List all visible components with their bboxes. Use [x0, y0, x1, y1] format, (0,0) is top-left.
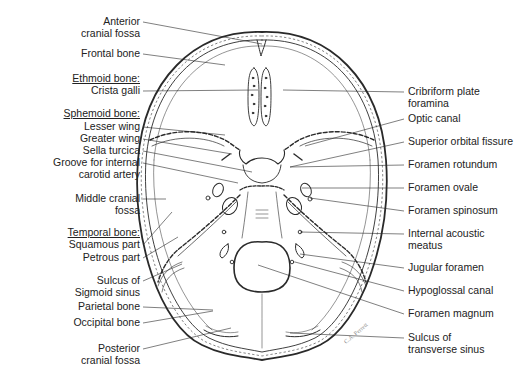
label-text: Groove for internal — [53, 156, 140, 168]
label-text: Optic canal — [408, 112, 461, 124]
leader-groove-internal-carotid — [143, 163, 238, 183]
label-sella-turcica: Sella turcica — [83, 144, 140, 156]
foramen-spinosum-left — [206, 196, 210, 200]
lesser-wing-left — [150, 132, 240, 150]
label-text: Frontal bone — [81, 47, 140, 59]
label-text: Cribriform plate — [408, 85, 480, 97]
hypoglossal-canal-right — [290, 260, 294, 264]
label-text: cranial fossa — [81, 354, 140, 366]
label-text: Middle cranial — [75, 192, 140, 204]
leader-lesser-wing — [143, 127, 225, 135]
label-foramen-rotundum: Foramen rotundum — [408, 158, 497, 170]
label-text: Ethmoid bone: — [72, 72, 140, 84]
foramen-ovale-right — [299, 182, 314, 199]
leader-parietal-bone — [143, 307, 213, 310]
petrous-ridge-right — [284, 195, 366, 282]
sella-turcica — [239, 150, 284, 164]
label-text: Foramen ovale — [408, 181, 478, 193]
superior-orbital-fissure-right — [294, 154, 302, 160]
lesser-wing-right — [284, 132, 374, 150]
jugular-foramen-left — [220, 244, 229, 258]
label-text: Jugular foramen — [408, 261, 484, 273]
hypoglossal-canal-left — [230, 260, 234, 264]
label-text: Sigmoid sinus — [75, 286, 140, 298]
label-frontal-bone: Frontal bone — [81, 47, 140, 59]
leader-crista-galli — [143, 90, 258, 91]
leader-foramen-magnum — [258, 265, 404, 314]
label-superior-orbital-fissure: Superior orbital fissure — [408, 135, 513, 147]
jugular-foramen-right — [295, 244, 304, 258]
label-text: Sella turcica — [83, 144, 140, 156]
label-cribriform-plate-foramina: Cribriform plateforamina — [408, 85, 480, 109]
artist-signature: C.A. Perrett — [343, 321, 369, 344]
label-text: fossa — [75, 204, 140, 216]
leader-internal-acoustic-meatus — [300, 232, 404, 234]
label-text: Foramen magnum — [408, 307, 494, 319]
leader-occipital-bone — [143, 311, 213, 323]
label-text: Internal acoustic — [408, 227, 484, 239]
label-foramen-spinosum: Foramen spinosum — [408, 204, 498, 216]
leader-posterior-cranial-fossa — [143, 328, 231, 349]
label-squamous-part: Squamous part — [69, 238, 140, 250]
label-ethmoid-bone-header: Ethmoid bone: — [72, 72, 140, 84]
leader-hypoglossal-canal — [295, 262, 404, 291]
leader-frontal-bone — [143, 54, 225, 65]
dorsum-sellae — [240, 186, 284, 190]
label-petrous-part: Petrous part — [83, 251, 140, 263]
foramen-spinosum-right — [308, 197, 312, 201]
label-text: Sulcus of — [408, 331, 484, 343]
label-sulcus-sigmoid-sinus: Sulcus ofSigmoid sinus — [75, 274, 140, 298]
label-optic-canal: Optic canal — [408, 112, 461, 124]
label-hypoglossal-canal: Hypoglossal canal — [408, 284, 493, 296]
label-foramen-ovale: Foramen ovale — [408, 181, 478, 193]
label-sphenoid-bone-header: Sphemoid bone: — [64, 107, 140, 119]
label-text: Foramen rotundum — [408, 158, 497, 170]
label-text: Squamous part — [69, 238, 140, 250]
label-text: meatus — [408, 239, 484, 251]
skull-base-diagram: C.A. Perrett Anteriorcranial fossaFronta… — [0, 0, 530, 375]
label-posterior-cranial-fossa: Posteriorcranial fossa — [81, 342, 140, 366]
label-text: Hypoglossal canal — [408, 284, 493, 296]
leader-sella-turcica — [143, 151, 252, 172]
label-foramen-magnum: Foramen magnum — [408, 307, 494, 319]
label-text: Crista galli — [91, 84, 140, 96]
label-text: Parietal bone — [78, 300, 140, 312]
label-greater-wing: Greater wing — [80, 132, 140, 144]
label-sulcus-transverse-sinus: Sulcus oftransverse sinus — [408, 331, 484, 355]
label-text: Anterior — [81, 15, 140, 27]
label-text: Superior orbital fissure — [408, 135, 513, 147]
leader-foramen-spinosum — [310, 198, 404, 211]
label-crista-galli: Crista galli — [91, 84, 140, 96]
label-text: Foramen spinosum — [408, 204, 498, 216]
superior-orbital-fissure-left — [222, 154, 230, 160]
label-middle-cranial-fossa: Middle cranialfossa — [75, 192, 140, 216]
foramen-ovale-left — [211, 182, 226, 199]
label-text: Lesser wing — [84, 120, 140, 132]
label-text: foramina — [408, 97, 480, 109]
label-text: Occipital bone — [73, 316, 140, 328]
label-text: transverse sinus — [408, 343, 484, 355]
label-text: Petrous part — [83, 251, 140, 263]
foramen-magnum — [234, 242, 290, 292]
label-text: carotid artery — [53, 168, 140, 180]
leader-optic-canal — [305, 119, 404, 146]
label-temporal-bone-header: Temporal bone: — [68, 226, 140, 238]
leader-cribriform-plate-foramina — [283, 90, 404, 92]
label-occipital-bone: Occipital bone — [73, 316, 140, 328]
leader-greater-wing — [143, 139, 232, 154]
label-jugular-foramen: Jugular foramen — [408, 261, 484, 273]
label-text: Posterior — [81, 342, 140, 354]
label-anterior-cranial-fossa: Anteriorcranial fossa — [81, 15, 140, 39]
label-groove-internal-carotid: Groove for internalcarotid artery — [53, 156, 140, 180]
label-text: Sulcus of — [75, 274, 140, 286]
cribriform-plate-left — [248, 68, 259, 126]
label-text: Temporal bone: — [68, 226, 140, 238]
label-parietal-bone: Parietal bone — [78, 300, 140, 312]
label-internal-acoustic-meatus: Internal acousticmeatus — [408, 227, 484, 251]
internal-acoustic-meatus-left — [222, 230, 226, 234]
label-text: Greater wing — [80, 132, 140, 144]
label-text: cranial fossa — [81, 27, 140, 39]
label-lesser-wing: Lesser wing — [84, 120, 140, 132]
label-text: Sphemoid bone: — [64, 107, 140, 119]
